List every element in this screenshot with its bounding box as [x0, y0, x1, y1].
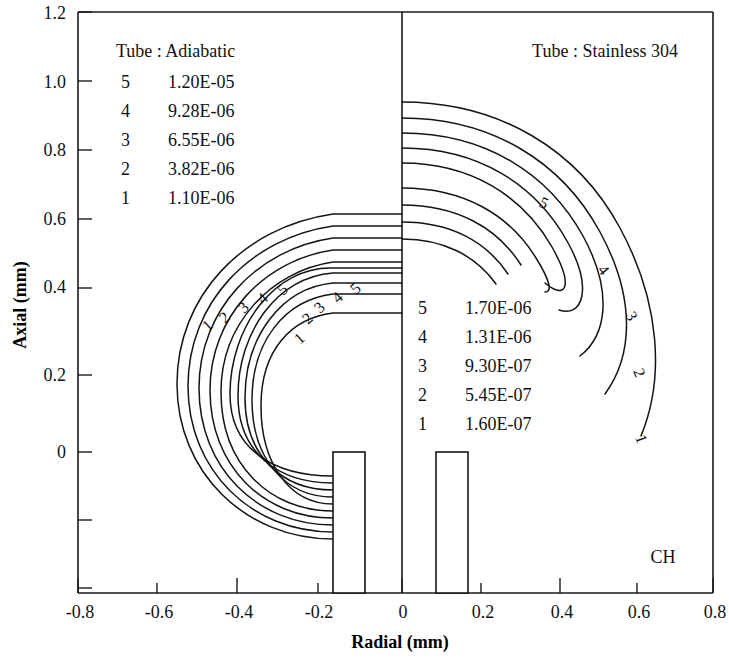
- x-tick-label: -0.6: [145, 602, 174, 622]
- right-legend-index: 3: [418, 356, 427, 376]
- left-tube-wall: [333, 452, 365, 593]
- y-tick-label: 1.2: [44, 3, 67, 23]
- x-tick-label: 0.4: [551, 602, 574, 622]
- x-tick-label: 0.8: [704, 602, 727, 622]
- left-legend-value: 6.55E-06: [168, 130, 235, 150]
- y-tick-label: 0.4: [44, 277, 67, 297]
- left-legend-value: 1.20E-05: [168, 72, 235, 92]
- right-legend-title: Tube : Stainless 304: [532, 41, 678, 61]
- right-legend-index: 5: [418, 298, 427, 318]
- right-tube-wall: [436, 452, 468, 593]
- left-legend-value: 9.28E-06: [168, 101, 235, 121]
- left-legend-index: 1: [121, 188, 130, 208]
- left-legend-index: 4: [121, 101, 130, 121]
- left-legend-index: 3: [121, 130, 130, 150]
- left-legend-value: 1.10E-06: [168, 188, 235, 208]
- y-tick-label: 0.6: [44, 209, 67, 229]
- left-legend-title: Tube : Adiabatic: [116, 41, 235, 61]
- y-tick-label: 0.8: [44, 140, 67, 160]
- x-tick-label: 0.6: [628, 602, 651, 622]
- left-legend-index: 2: [121, 159, 130, 179]
- right-legend-value: 1.31E-06: [465, 327, 532, 347]
- y-tick-label: 0.2: [44, 365, 67, 385]
- contour-plot-figure: 1.2 1.0 0.8 0.6 0.4 0.2 0 Axial (mm): [0, 0, 729, 660]
- x-tick-label: -0.4: [225, 602, 254, 622]
- x-tick-label: 0: [399, 602, 408, 622]
- y-tick-label: 0: [57, 442, 66, 462]
- x-tick-label: -0.8: [66, 602, 95, 622]
- y-axis-title: Axial (mm): [10, 261, 31, 348]
- right-legend-index: 1: [418, 414, 427, 434]
- right-legend-value: 5.45E-07: [465, 385, 532, 405]
- right-legend-value: 1.60E-07: [465, 414, 532, 434]
- y-tick-label: 1.0: [44, 72, 67, 92]
- right-legend-index: 4: [418, 327, 427, 347]
- left-legend-index: 5: [121, 72, 130, 92]
- x-tick-label: 0.2: [472, 602, 495, 622]
- right-legend-value: 9.30E-07: [465, 356, 532, 376]
- x-tick-label: -0.2: [305, 602, 334, 622]
- right-legend-value: 1.70E-06: [465, 298, 532, 318]
- right-legend-index: 2: [418, 385, 427, 405]
- corner-annotation-label: CH: [650, 547, 675, 567]
- x-axis-title: Radial (mm): [351, 632, 449, 653]
- left-legend-value: 3.82E-06: [168, 159, 235, 179]
